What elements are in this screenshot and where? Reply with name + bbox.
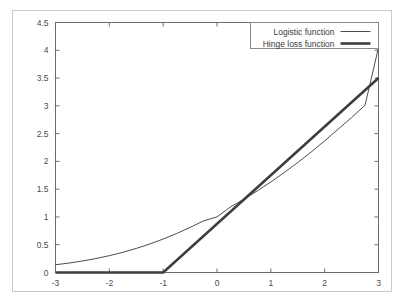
chart-legend[interactable]: Logistic functionHinge loss function — [251, 23, 379, 49]
plot-axes — [56, 23, 379, 273]
x-tick-label: -2 — [106, 278, 114, 288]
y-tick-label: 2.5 — [37, 129, 49, 139]
data-series — [56, 48, 379, 273]
x-tick-label: -1 — [159, 278, 167, 288]
legend-label-0[interactable]: Logistic function — [274, 27, 335, 37]
y-tick-label: 0 — [44, 268, 49, 278]
x-tick-label: 2 — [322, 278, 327, 288]
loss-function-chart: 00.511.522.533.544.5 -3-2-10123 Logistic… — [0, 0, 410, 306]
x-tick-label: 0 — [215, 278, 220, 288]
y-axis-tick-labels: 00.511.522.533.544.5 — [37, 18, 49, 278]
y-tick-label: 1.5 — [37, 184, 49, 194]
y-tick-label: 1 — [44, 212, 49, 222]
x-axis-tick-labels: -3-2-10123 — [52, 278, 381, 288]
y-tick-label: 3 — [44, 101, 49, 111]
series-hinge-loss-function — [56, 78, 379, 272]
y-tick-label: 4.5 — [37, 18, 49, 28]
y-tick-label: 3.5 — [37, 73, 49, 83]
series-logistic-function — [56, 48, 379, 265]
axis-ticks — [56, 23, 379, 273]
chart-figure: 00.511.522.533.544.5 -3-2-10123 Logistic… — [0, 0, 410, 306]
y-tick-label: 2 — [44, 156, 49, 166]
x-tick-label: 1 — [268, 278, 273, 288]
x-tick-label: 3 — [376, 278, 381, 288]
y-tick-label: 4 — [44, 45, 49, 55]
legend-label-1[interactable]: Hinge loss function — [263, 39, 335, 49]
x-tick-label: -3 — [52, 278, 60, 288]
y-tick-label: 0.5 — [37, 240, 49, 250]
